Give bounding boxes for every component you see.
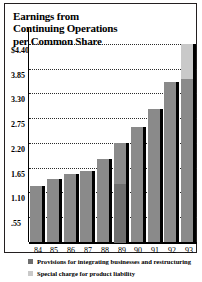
bar-86 bbox=[64, 4, 76, 242]
y-axis-tick-label: 1.65 bbox=[11, 171, 25, 179]
bar-shadow bbox=[160, 109, 163, 242]
bar-shadow bbox=[42, 186, 45, 242]
legend-swatch-special-charge-icon bbox=[28, 271, 33, 276]
bar-body bbox=[181, 44, 193, 242]
y-axis-tick-label: 1.10 bbox=[11, 195, 25, 203]
bar-92 bbox=[164, 4, 176, 242]
x-axis-tick-label: 90 bbox=[130, 246, 146, 255]
x-axis-tick-label: 93 bbox=[181, 246, 197, 255]
legend-label-special-charge: Special charge for product liability bbox=[37, 270, 135, 277]
bar-body bbox=[30, 186, 42, 242]
x-axis-baseline bbox=[29, 242, 197, 244]
x-axis-tick-label: 88 bbox=[97, 246, 113, 255]
bar-body bbox=[97, 159, 109, 242]
y-axis-tick-label: 2.20 bbox=[11, 146, 25, 154]
chart-frame: Earnings from Continuing Operations per … bbox=[4, 3, 197, 253]
earnings-bar-chart-figure: Earnings from Continuing Operations per … bbox=[0, 0, 202, 282]
bar-87 bbox=[80, 4, 92, 242]
bar-body bbox=[114, 143, 126, 242]
chart-legend: Provisions for integrating businesses an… bbox=[28, 256, 200, 280]
bar-body bbox=[148, 109, 160, 242]
bar-shadow bbox=[92, 171, 95, 242]
bar-89 bbox=[114, 4, 126, 242]
bar-shadow bbox=[193, 44, 196, 242]
y-axis-spine bbox=[28, 28, 29, 242]
legend-swatch-provisions-icon bbox=[28, 259, 33, 264]
legend-item-special-charge: Special charge for product liability bbox=[28, 268, 200, 278]
y-axis-tick-label: 3.85 bbox=[11, 72, 25, 80]
bar-91 bbox=[148, 4, 160, 242]
x-axis-tick-label: 87 bbox=[80, 246, 96, 255]
y-axis-tick-label: 2.75 bbox=[11, 121, 25, 129]
bar-shadow bbox=[176, 82, 179, 242]
bar-shadow bbox=[126, 143, 129, 242]
bar-body bbox=[64, 174, 76, 242]
bar-90 bbox=[131, 4, 143, 242]
bar-84 bbox=[30, 4, 42, 242]
bar-shadow bbox=[109, 159, 112, 242]
bar-body bbox=[131, 127, 143, 242]
bar-body bbox=[47, 179, 59, 242]
bar-shadow bbox=[76, 174, 79, 242]
bar-93 bbox=[181, 4, 193, 242]
bar-shadow bbox=[59, 179, 62, 242]
bar-shadow bbox=[143, 127, 146, 242]
y-axis-tick-label: $4.40 bbox=[11, 47, 29, 55]
bar-body bbox=[164, 82, 176, 242]
bar-body bbox=[80, 171, 92, 242]
x-axis-tick-label: 86 bbox=[63, 246, 79, 255]
y-axis-tick-label: 3.30 bbox=[11, 96, 25, 104]
legend-label-provisions: Provisions for integrating businesses an… bbox=[37, 258, 191, 265]
legend-item-provisions: Provisions for integrating businesses an… bbox=[28, 256, 200, 266]
bar-85 bbox=[47, 4, 59, 242]
y-axis-tick-label: .55 bbox=[11, 220, 21, 228]
bar-88 bbox=[97, 4, 109, 242]
x-axis-tick-label: 85 bbox=[46, 246, 62, 255]
x-axis-tick-label: 84 bbox=[30, 246, 46, 255]
bar-segment bbox=[114, 184, 126, 243]
x-axis-tick-label: 89 bbox=[114, 246, 130, 255]
x-axis-tick-label: 91 bbox=[147, 246, 163, 255]
x-axis-tick-label: 92 bbox=[164, 246, 180, 255]
bar-segment bbox=[181, 44, 193, 79]
